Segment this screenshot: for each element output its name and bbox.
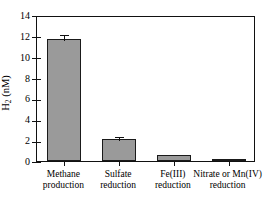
y-axis-tick-inner — [37, 121, 41, 122]
error-bar-cap — [115, 137, 124, 138]
y-axis-tick-label: 6 — [6, 94, 30, 104]
y-axis-tick-inner — [37, 142, 41, 143]
y-axis-tick-inner — [37, 79, 41, 80]
bar — [47, 39, 81, 161]
x-axis-tick — [174, 161, 175, 166]
y-axis-tick-label: 8 — [6, 74, 30, 84]
plot-inner — [37, 17, 254, 161]
x-axis-tick — [64, 161, 65, 166]
x-axis-tick — [229, 161, 230, 166]
y-axis-tick-label: 0 — [6, 157, 30, 167]
plot-area — [36, 16, 255, 162]
y-axis-tick-label: 12 — [6, 32, 30, 42]
y-axis-tick-inner — [37, 58, 41, 59]
y-axis-tick-label: 10 — [6, 53, 30, 63]
chart-figure: H2 (nM) 02468101214 Methane productionSu… — [0, 0, 276, 197]
y-axis-tick-label: 2 — [6, 136, 30, 146]
y-axis-tick-label: 14 — [6, 11, 30, 21]
x-axis-category-label: Nitrate or Mn(IV) reduction — [193, 169, 262, 191]
bar — [102, 139, 136, 161]
y-axis-tick-label: 4 — [6, 115, 30, 125]
y-axis-tick-inner — [37, 37, 41, 38]
y-axis-tick-inner — [37, 162, 41, 163]
error-bar-cap — [60, 35, 69, 36]
x-axis-tick — [119, 161, 120, 166]
y-axis-tick-inner — [37, 16, 41, 17]
y-axis-tick-inner — [37, 100, 41, 101]
